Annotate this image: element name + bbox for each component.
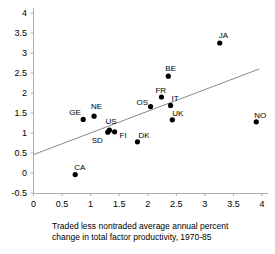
point-label-os: OS bbox=[137, 98, 149, 107]
point-label-it: IT bbox=[172, 94, 179, 103]
y-tick-label: 1 bbox=[5, 128, 27, 138]
data-point-fr bbox=[159, 94, 164, 99]
y-tick-label: 0.5 bbox=[5, 148, 27, 158]
point-label-sd: SD bbox=[92, 136, 103, 145]
caption-line-1: Traded less nontraded average annual per… bbox=[52, 221, 267, 232]
point-label-ge: GE bbox=[69, 108, 81, 117]
x-tick-label: 2.5 bbox=[165, 199, 187, 209]
x-tick-label: 3 bbox=[194, 199, 216, 209]
data-point-os bbox=[148, 104, 153, 109]
data-point-fi bbox=[112, 129, 117, 134]
y-tick-label: 2.5 bbox=[5, 68, 27, 78]
data-point-us bbox=[107, 128, 112, 133]
point-label-fi: FI bbox=[120, 131, 127, 140]
y-tick-label: 4 bbox=[5, 8, 27, 18]
y-tick-label: 2 bbox=[5, 88, 27, 98]
x-tick-label: 2 bbox=[137, 199, 159, 209]
trend-line bbox=[34, 69, 260, 155]
y-tick-label: 0 bbox=[5, 168, 27, 178]
point-label-ca: CA bbox=[74, 163, 85, 172]
point-label-uk: UK bbox=[172, 109, 183, 118]
x-tick-label: 0 bbox=[23, 199, 45, 209]
point-label-fr: FR bbox=[155, 86, 166, 95]
data-point-ja bbox=[217, 40, 222, 45]
data-point-ne bbox=[91, 114, 96, 119]
y-tick-label: 3.5 bbox=[5, 28, 27, 38]
y-tick-label: -0.5 bbox=[5, 188, 27, 198]
x-tick-label: 4 bbox=[251, 199, 273, 209]
data-point-ca bbox=[73, 172, 78, 177]
plot-area bbox=[0, 0, 275, 254]
scatter-chart: 43.532.521.510.50-0.5 00.511.522.533.54 … bbox=[0, 0, 275, 254]
point-label-ne: NE bbox=[91, 102, 102, 111]
data-point-it bbox=[168, 103, 173, 108]
data-point-uk bbox=[170, 117, 175, 122]
data-point-ge bbox=[81, 117, 86, 122]
point-label-dk: DK bbox=[138, 131, 149, 140]
point-label-us: US bbox=[105, 117, 116, 126]
y-tick-label: 1.5 bbox=[5, 108, 27, 118]
point-label-no: NO bbox=[254, 111, 266, 120]
x-axis-caption: Traded less nontraded average annual per… bbox=[52, 221, 267, 243]
x-tick-label: 0.5 bbox=[51, 199, 73, 209]
axis-lines bbox=[34, 8, 269, 194]
x-tick-label: 1.5 bbox=[108, 199, 130, 209]
data-point-no bbox=[254, 119, 259, 124]
caption-line-2: change in total factor productivity, 197… bbox=[52, 232, 267, 243]
y-tick-label: 3 bbox=[5, 48, 27, 58]
point-label-be: BE bbox=[165, 64, 176, 73]
data-point-be bbox=[166, 74, 171, 79]
x-tick-label: 1 bbox=[80, 199, 102, 209]
x-tick-label: 3.5 bbox=[222, 199, 244, 209]
data-point-dk bbox=[135, 139, 140, 144]
point-label-ja: JA bbox=[219, 31, 228, 40]
